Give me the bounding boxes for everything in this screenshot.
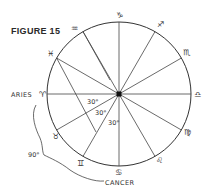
leo-glyph: ♌ xyxy=(156,156,163,165)
libra-glyph: ♎ xyxy=(194,90,201,99)
taurus-glyph: ♉ xyxy=(52,132,59,141)
cancer-glyph: ♋ xyxy=(115,168,122,177)
ninety-degree-label: 90° xyxy=(28,151,40,159)
spoke-300 xyxy=(119,94,155,156)
zodiac-figure: FIGURE 15 ♑ ♐ ♏ ♎ xyxy=(0,0,212,196)
chord-line xyxy=(83,32,110,80)
pisces-glyph: ♓ xyxy=(47,49,54,58)
angle-labels: 30° 30° 30° xyxy=(87,98,120,127)
spoke-30 xyxy=(119,58,181,94)
gemini-glyph: ♊ xyxy=(77,159,84,168)
aries-label: ARIES xyxy=(11,91,32,99)
scorpio-glyph: ♏ xyxy=(183,48,191,57)
spoke-330 xyxy=(119,94,181,130)
aquarius-glyph: ♒ xyxy=(71,24,78,33)
angle-label-2: 30° xyxy=(95,109,107,117)
capricorn-glyph: ♑ xyxy=(116,11,123,20)
center-point xyxy=(117,92,122,97)
sagittarius-glyph: ♐ xyxy=(157,20,164,29)
figure-title: FIGURE 15 xyxy=(11,26,60,36)
virgo-glyph: ♍ xyxy=(184,128,191,137)
cancer-label: CANCER xyxy=(105,179,134,187)
angle-label-1: 30° xyxy=(87,98,99,106)
spoke-60 xyxy=(119,32,155,94)
angle-label-3: 30° xyxy=(108,119,120,127)
ninety-degree-bracket xyxy=(33,105,104,181)
aries-glyph: ♈ xyxy=(39,90,46,99)
